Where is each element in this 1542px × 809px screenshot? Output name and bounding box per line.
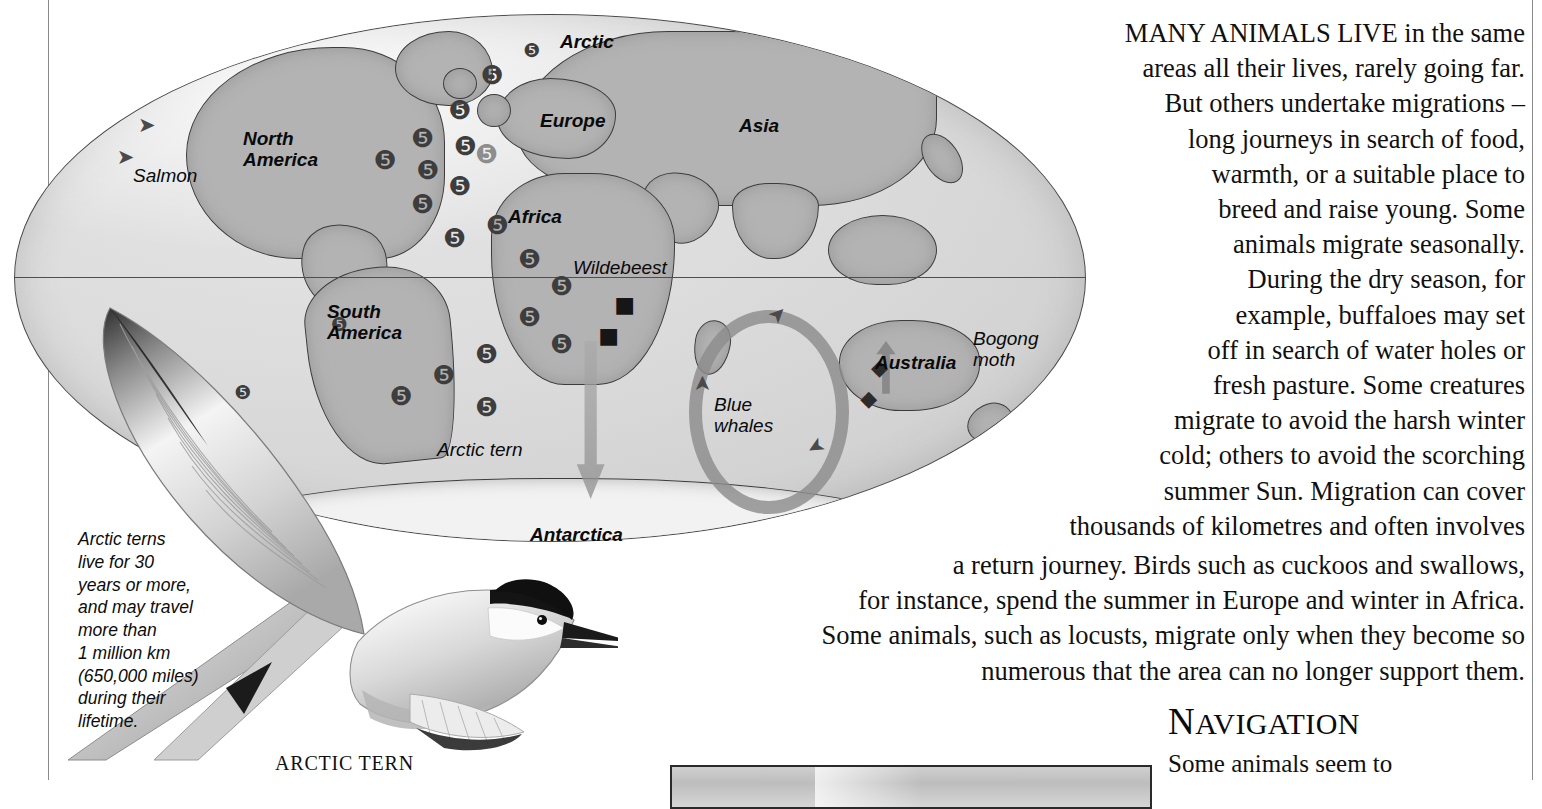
tern-figure-caption: ARCTIC TERN xyxy=(275,752,414,775)
tern-bird-icon: ❺ xyxy=(443,225,466,251)
tern-bird-icon: ❺ xyxy=(518,246,541,272)
navigation-heading: NAVIGATION xyxy=(1168,700,1360,743)
navigation-heading-initial: N xyxy=(1168,701,1195,742)
column-rule-right xyxy=(1532,0,1533,780)
navigation-heading-rest: AVIGATION xyxy=(1195,707,1360,740)
tern-bird-icon: ❺ xyxy=(448,97,471,123)
salmon-icon: ➤ xyxy=(117,147,135,168)
map-label-salmon: Salmon xyxy=(133,166,197,187)
bottom-photo-frame xyxy=(670,765,1152,809)
tern-note-caption: Arctic terns live for 30 years or more, … xyxy=(78,528,238,733)
map-label-africa: Africa xyxy=(508,207,562,228)
navigation-body-text: Some animals seem to xyxy=(1168,748,1518,780)
tern-bird-icon: ❺ xyxy=(416,157,439,183)
landmass-iceland xyxy=(443,68,477,99)
article-paragraph-2: a return journey. Birds such as cuckoos … xyxy=(560,548,1525,689)
tern-bird-icon: ❺ xyxy=(448,173,471,199)
tern-bird-icon: ❺ xyxy=(411,125,434,151)
tern-bird-icon: ❺ xyxy=(411,191,434,217)
map-label-north-america: North America xyxy=(243,129,318,170)
tern-bird-icon: ❺ xyxy=(454,133,477,159)
article-paragraph-1: MANY ANIMALS LIVE in the same areas all … xyxy=(560,16,1525,544)
tern-bird-icon: ❺ xyxy=(523,41,540,60)
tern-bird-icon: ❺ xyxy=(480,62,503,88)
tern-bird-icon: ❺ xyxy=(486,212,509,238)
salmon-icon: ➤ xyxy=(138,115,156,136)
tern-bird-icon: ❺ xyxy=(475,141,498,167)
tern-bird-icon: ❺ xyxy=(373,147,396,173)
photo-highlight xyxy=(815,767,920,807)
